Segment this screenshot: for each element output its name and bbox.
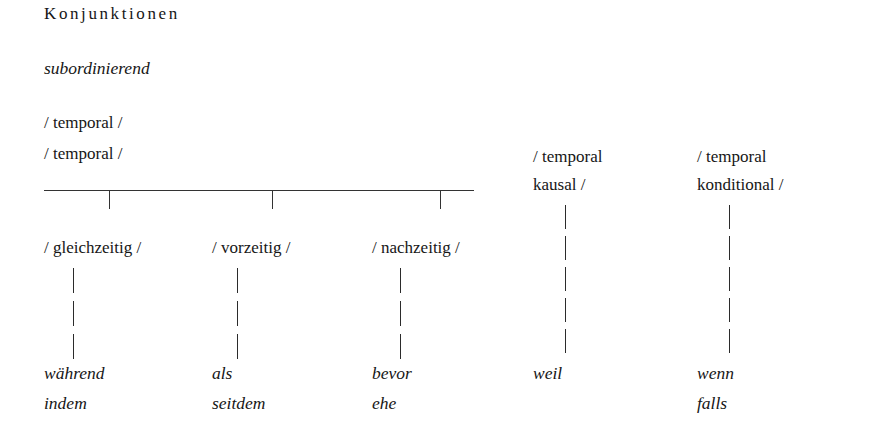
feature-label-vorzeitig: / vorzeitig / bbox=[212, 232, 290, 263]
connector-dash-nachzeitig-1 bbox=[400, 268, 401, 293]
branch-tick-gleichzeitig bbox=[109, 190, 110, 209]
feature-label-kausal-line-1: / temporal bbox=[533, 141, 602, 172]
feature-label-konditional-line-1: / temporal bbox=[697, 141, 766, 172]
connector-dash-gleichzeitig-2 bbox=[73, 301, 74, 326]
root-feature-line-1: / temporal / bbox=[44, 107, 122, 138]
example-word-falls: falls bbox=[697, 388, 727, 418]
connector-dash-konditional-5 bbox=[729, 329, 730, 353]
connector-dash-nachzeitig-2 bbox=[400, 301, 401, 326]
branch-tick-nachzeitig bbox=[440, 190, 441, 209]
connector-dash-konditional-3 bbox=[729, 267, 730, 291]
example-word-wenn: wenn bbox=[697, 358, 734, 388]
connector-dash-konditional-2 bbox=[729, 236, 730, 260]
feature-label-kausal-line-2: kausal / bbox=[533, 169, 585, 200]
connector-dash-kausal-3 bbox=[565, 267, 566, 291]
feature-label-nachzeitig: / nachzeitig / bbox=[372, 232, 460, 263]
conjunctions-tree-diagram: Konjunktionen subordinierend / temporal … bbox=[0, 0, 870, 436]
connector-dash-vorzeitig-3 bbox=[237, 334, 238, 359]
connector-dash-vorzeitig-1 bbox=[237, 268, 238, 293]
branch-tick-vorzeitig bbox=[272, 190, 273, 209]
connector-dash-kausal-4 bbox=[565, 298, 566, 322]
connector-dash-gleichzeitig-3 bbox=[73, 334, 74, 359]
connector-dash-konditional-4 bbox=[729, 298, 730, 322]
feature-label-konditional-line-2: konditional / bbox=[697, 169, 783, 200]
connector-dash-kausal-5 bbox=[565, 329, 566, 353]
connector-dash-kausal-1 bbox=[565, 205, 566, 229]
root-feature-line-2: / temporal / bbox=[44, 138, 122, 169]
diagram-subtitle: subordinierend bbox=[44, 58, 150, 79]
example-word-seitdem: seitdem bbox=[212, 388, 265, 418]
example-word-weil: weil bbox=[533, 358, 562, 388]
connector-dash-kausal-2 bbox=[565, 236, 566, 260]
connector-dash-vorzeitig-2 bbox=[237, 301, 238, 326]
connector-dash-nachzeitig-3 bbox=[400, 334, 401, 359]
connector-dash-konditional-1 bbox=[729, 205, 730, 229]
example-word-als: als bbox=[212, 358, 232, 388]
page-title: Konjunktionen bbox=[44, 4, 180, 24]
connector-dash-gleichzeitig-1 bbox=[73, 268, 74, 293]
example-word-ehe: ehe bbox=[372, 388, 396, 418]
example-word-indem: indem bbox=[44, 388, 87, 418]
example-word-waehrend: während bbox=[44, 358, 105, 388]
example-word-bevor: bevor bbox=[372, 358, 412, 388]
feature-label-gleichzeitig: / gleichzeitig / bbox=[44, 232, 141, 263]
